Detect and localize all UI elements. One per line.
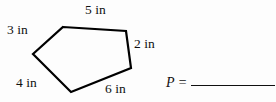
side-label-4in: 4 in: [16, 76, 37, 90]
perimeter-symbol: P =: [166, 76, 187, 90]
side-label-6in: 6 in: [105, 82, 126, 96]
perimeter-answer-row: P =: [166, 76, 275, 90]
side-label-5in: 5 in: [85, 3, 106, 17]
perimeter-answer-blank[interactable]: [191, 85, 275, 86]
side-label-2in: 2 in: [134, 37, 155, 51]
side-label-3in: 3 in: [7, 23, 28, 37]
perimeter-problem-figure: 3 in 5 in 2 in 4 in 6 in P =: [0, 0, 276, 102]
